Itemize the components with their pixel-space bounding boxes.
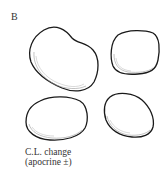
figure-caption: C.L. change (apocrine ±) (25, 147, 72, 167)
caption-line-1: C.L. change (25, 147, 72, 157)
cell-bottom-left (26, 97, 87, 140)
cell-bottom-right (104, 93, 153, 137)
cell-diagram (0, 0, 167, 171)
cell-top-right (111, 31, 159, 75)
cell-large-kidney (30, 27, 98, 91)
caption-line-2: (apocrine ±) (25, 157, 72, 167)
